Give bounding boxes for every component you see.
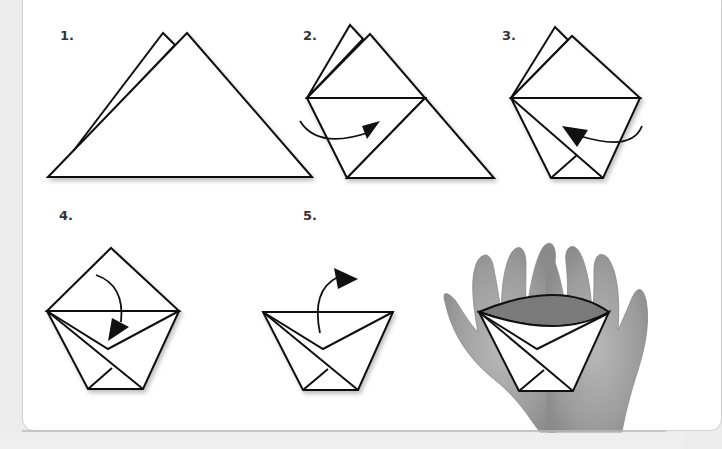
step-5-figure xyxy=(263,312,393,390)
step-4-figure xyxy=(47,248,179,389)
step-3-figure xyxy=(511,27,640,178)
step-1-figure xyxy=(48,33,312,177)
arrowhead-icon xyxy=(334,268,358,289)
step-2-figure xyxy=(307,25,494,178)
triangle xyxy=(48,33,312,177)
top-flap xyxy=(47,248,179,311)
